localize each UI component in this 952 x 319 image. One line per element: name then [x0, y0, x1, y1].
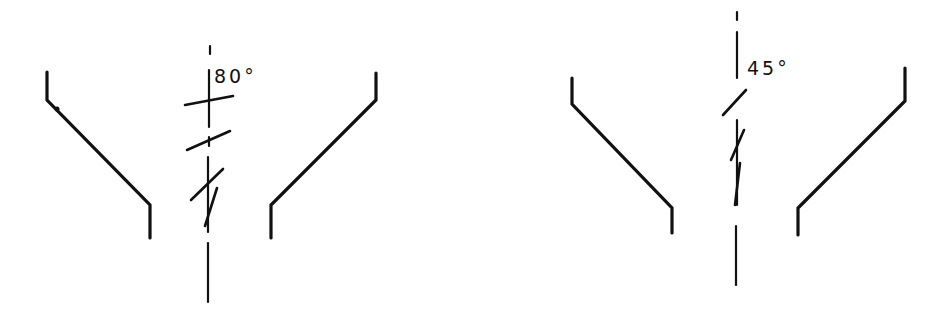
angle-label-45: 45°	[747, 57, 790, 79]
flow-angle-strokes	[723, 90, 746, 205]
angle-label-80: 80°	[214, 65, 257, 87]
hopper-left-wall	[572, 78, 672, 233]
wall-joint-dot	[55, 107, 60, 112]
hopper-right-wall	[798, 68, 905, 235]
hopper-panel-80: 80°	[47, 46, 376, 302]
hopper-left-wall	[47, 72, 150, 238]
centerline	[208, 46, 210, 302]
diagram-canvas: 80° 45°	[0, 0, 952, 319]
hopper-right-wall	[271, 73, 376, 238]
hopper-panel-45: 45°	[572, 12, 905, 285]
